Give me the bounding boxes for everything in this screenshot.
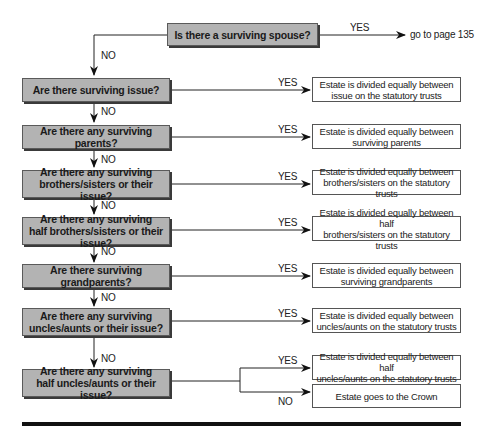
- no-label: NO: [101, 154, 115, 165]
- result-text: Estate is divided equally between uncles…: [316, 310, 456, 332]
- bottom-rule: [22, 422, 461, 426]
- result-grandparents: Estate is divided equally between surviv…: [312, 263, 461, 288]
- result-half-uncles-aunts: Estate is divided equally between half u…: [312, 355, 461, 380]
- result-text: Estate is divided equally between surviv…: [320, 265, 454, 287]
- no-label: NO: [278, 396, 292, 407]
- result-text: Estate is divided equally between surviv…: [320, 126, 454, 148]
- result-uncles-aunts: Estate is divided equally between uncles…: [312, 308, 461, 333]
- decision-text: Are there surviving grandparents?: [23, 264, 169, 288]
- no-label: NO: [101, 106, 115, 117]
- result-text: Estate goes to the Crown: [336, 391, 438, 402]
- result-text: Estate is divided equally between half u…: [313, 351, 460, 384]
- no-label: NO: [101, 246, 115, 257]
- yes-label: YES: [278, 355, 297, 366]
- decision-text: Is there a surviving spouse?: [174, 29, 310, 41]
- decision-surviving-half-siblings: Are there any surviving half brothers/si…: [22, 217, 170, 245]
- decision-surviving-issue: Are there surviving issue?: [22, 78, 170, 102]
- yes-label: YES: [278, 171, 297, 182]
- decision-surviving-half-uncles-aunts: Are there any surviving half uncles/aunt…: [22, 369, 170, 397]
- decision-surviving-parents: Are there any surviving parents?: [22, 125, 170, 149]
- result-siblings: Estate is divided equally between brothe…: [312, 170, 461, 195]
- yes-label: YES: [278, 217, 297, 228]
- yes-label: YES: [278, 263, 297, 274]
- yes-label: YES: [278, 308, 297, 319]
- inheritance-flowchart: Is there a surviving spouse? YES go to p…: [0, 0, 488, 435]
- decision-text: Are there any surviving half brothers/si…: [23, 213, 169, 249]
- decision-text: Are there any surviving parents?: [23, 125, 169, 149]
- yes-label: YES: [278, 124, 297, 135]
- decision-surviving-siblings: Are there any surviving brothers/sisters…: [22, 170, 170, 198]
- result-text: Estate is divided equally between brothe…: [313, 166, 460, 199]
- result-issue: Estate is divided equally between issue …: [312, 77, 461, 102]
- result-crown: Estate goes to the Crown: [312, 384, 461, 408]
- decision-text: Are there surviving issue?: [33, 84, 160, 96]
- yes-label: YES: [350, 22, 369, 33]
- decision-surviving-spouse: Is there a surviving spouse?: [167, 23, 318, 46]
- no-label: NO: [101, 353, 115, 364]
- yes-label: YES: [278, 77, 297, 88]
- result-text: Estate is divided equally between issue …: [320, 79, 454, 101]
- decision-surviving-uncles-aunts: Are there any surviving uncles/aunts or …: [22, 308, 170, 336]
- result-text: Estate is divided equally between half b…: [313, 207, 460, 251]
- result-half-siblings: Estate is divided equally between half b…: [312, 216, 461, 241]
- result-parents: Estate is divided equally between surviv…: [312, 124, 461, 149]
- goto-page-text: go to page 135: [410, 29, 474, 40]
- no-label: NO: [101, 200, 115, 211]
- no-label: NO: [101, 50, 115, 61]
- decision-text: Are there any surviving brothers/sisters…: [23, 166, 169, 202]
- decision-text: Are there any surviving uncles/aunts or …: [29, 310, 163, 334]
- decision-text: Are there any surviving half uncles/aunt…: [23, 365, 169, 401]
- no-label: NO: [101, 292, 115, 303]
- decision-surviving-grandparents: Are there surviving grandparents?: [22, 264, 170, 288]
